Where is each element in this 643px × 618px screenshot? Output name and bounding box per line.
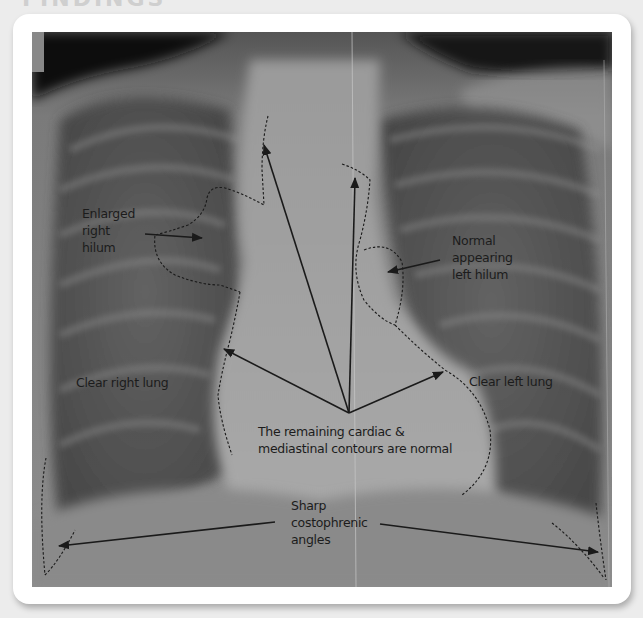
label-line: Enlarged (82, 205, 135, 222)
label-clear-left-lung: Clear left lung (469, 373, 553, 390)
label-line: appearing (452, 249, 513, 266)
label-line: The remaining cardiac & (258, 423, 452, 440)
label-normal-left-hilum: Normal appearing left hilum (452, 232, 513, 283)
label-line: left hilum (452, 266, 513, 283)
label-line: angles (291, 531, 368, 548)
label-clear-right-lung: Clear right lung (76, 374, 168, 391)
label-cardiac-contours: The remaining cardiac & mediastinal cont… (258, 423, 452, 457)
label-line: mediastinal contours are normal (258, 440, 452, 457)
label-line: costophrenic (291, 514, 368, 531)
label-line: Normal (452, 232, 513, 249)
label-enlarged-right-hilum: Enlarged right hilum (82, 205, 135, 256)
label-costophrenic-angles: Sharp costophrenic angles (291, 497, 368, 548)
label-line: Sharp (291, 497, 368, 514)
label-line: right (82, 222, 135, 239)
page-title-cropped: FINDINGS (22, 0, 166, 4)
label-line: hilum (82, 239, 135, 256)
